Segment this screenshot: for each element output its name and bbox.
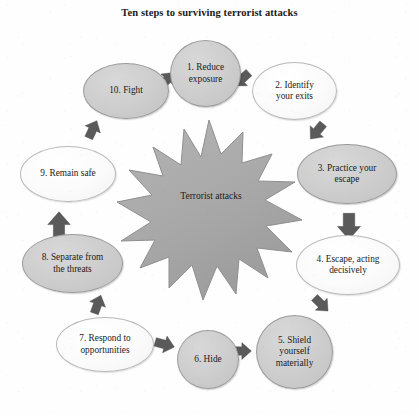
step-8-line-2: the threats	[28, 264, 117, 276]
step-9-line-1: 9. Remain safe	[26, 168, 110, 180]
step-3-line-1: 3. Practice your	[303, 163, 391, 175]
step-node-9[interactable]: 9. Remain safe	[20, 146, 116, 202]
step-5-line-2: yourself	[262, 346, 327, 358]
step-node-5[interactable]: 5. Shield yourself materially	[256, 315, 333, 389]
step-node-2[interactable]: 2. Identify your exits	[252, 62, 337, 120]
step-7-line-1: 7. Respond to	[62, 333, 148, 345]
arrow-4-to-5	[309, 292, 334, 317]
diagram-canvas: Ten steps to surviving terrorist attacks…	[0, 0, 419, 414]
step-4-line-2: decisively	[302, 265, 394, 277]
step-4-line-1: 4. Escape, acting	[302, 254, 394, 266]
step-1-line-1: 1. Reduce	[176, 62, 235, 74]
arrow-6-to-7	[153, 334, 177, 356]
step-2-line-1: 2. Identify	[258, 80, 331, 92]
step-node-7[interactable]: 7. Respond to opportunities	[56, 317, 154, 372]
step-node-8[interactable]: 8. Separate from the threats	[22, 234, 123, 293]
step-node-10[interactable]: 10. Fight	[83, 63, 169, 119]
step-node-1[interactable]: 1. Reduce exposure	[170, 40, 241, 107]
step-node-6[interactable]: 6. Hide	[177, 330, 239, 389]
step-2-line-2: your exits	[258, 91, 331, 103]
step-1-line-2: exposure	[176, 74, 235, 86]
step-3-line-2: escape	[303, 174, 391, 186]
step-node-3[interactable]: 3. Practice your escape	[297, 144, 397, 204]
arrow-9-to-10	[81, 117, 104, 142]
step-7-line-2: opportunities	[62, 345, 148, 357]
step-8-line-1: 8. Separate from	[28, 252, 117, 264]
arrow-2-to-3	[304, 118, 330, 144]
step-10-line-1: 10. Fight	[89, 85, 163, 97]
arrow-7-to-8	[86, 292, 108, 316]
step-5-line-3: materially	[262, 358, 327, 370]
step-6-line-1: 6. Hide	[183, 354, 233, 366]
step-5-line-1: 5. Shield	[262, 335, 327, 347]
step-node-4[interactable]: 4. Escape, acting decisively	[296, 235, 400, 295]
